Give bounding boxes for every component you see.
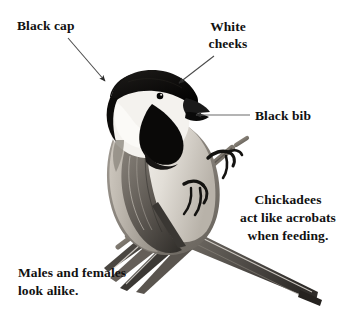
note-acrobats: Chickadees act like acrobats when feedin…: [228, 191, 348, 244]
arrow-black-cap: [68, 38, 105, 81]
label-black-cap: Black cap: [17, 18, 75, 35]
label-black-bib: Black bib: [255, 108, 311, 125]
note-males-females: Males and females look alike.: [18, 264, 126, 300]
label-white-cheeks: White cheeks: [196, 19, 260, 53]
chickadee-diagram: Black cap White cheeks Black bib Chickad…: [0, 0, 350, 318]
arrow-white-cheeks: [179, 56, 214, 83]
